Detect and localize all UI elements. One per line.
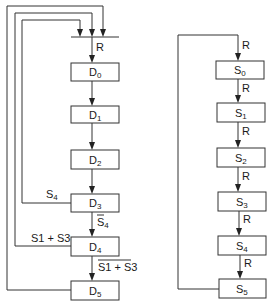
svg-text:R: R	[244, 257, 252, 269]
arrow-icon	[236, 228, 242, 236]
arrow-icon	[89, 142, 95, 150]
arrow-icon	[89, 273, 95, 281]
state-diagram: R D0 D1 D2 D3 S4 S4 D4 S1 + S3 S1 + S3	[0, 0, 274, 305]
entry-label-r: R	[96, 41, 104, 53]
svg-text:R: R	[242, 170, 250, 182]
arrow-icon	[235, 95, 241, 103]
transition-label-not-s4: S4	[97, 216, 109, 230]
arrow-icon	[235, 53, 241, 61]
arrow-icon	[237, 271, 243, 279]
svg-text:R: R	[242, 125, 250, 137]
arrow-icon	[89, 229, 95, 237]
d-chain: R D0 D1 D2 D3 S4 S4 D4 S1 + S3 S1 + S3	[7, 6, 137, 300]
arrow-icon	[100, 29, 106, 37]
transition-label-not-s1-s3: S1 + S3	[98, 261, 137, 273]
svg-text:R: R	[242, 39, 250, 51]
arrow-icon	[77, 29, 83, 37]
feedback-label-s4: S4	[46, 188, 58, 202]
arrow-icon	[89, 29, 95, 37]
arrow-icon	[235, 184, 241, 192]
arrow-icon	[235, 140, 241, 148]
s-chain: R S0 R S1 R S2 R S3 R S4 R S5	[178, 35, 266, 298]
feedback-label-s1-s3: S1 + S3	[31, 232, 70, 244]
svg-text:R: R	[242, 82, 250, 94]
arrow-icon	[89, 55, 95, 63]
svg-text:R: R	[243, 213, 251, 225]
arrow-icon	[89, 98, 95, 106]
arrow-icon	[89, 186, 95, 194]
